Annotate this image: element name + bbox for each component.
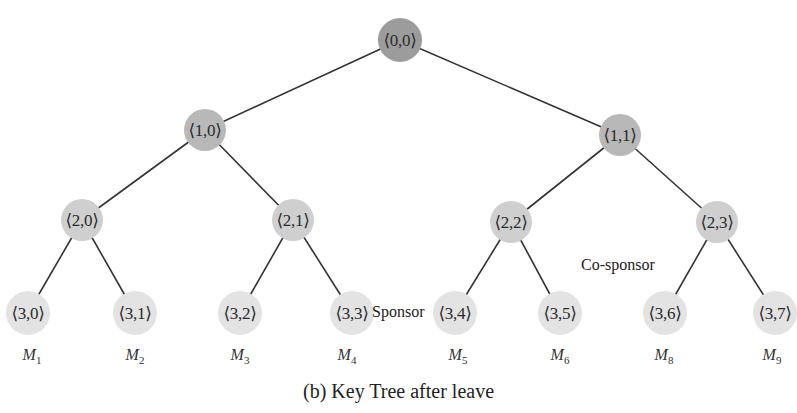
member-label-m9: M9 <box>763 346 782 366</box>
sponsor-label: Sponsor <box>372 303 424 321</box>
tree-node-2-2: ⟨2,2⟩ <box>490 201 532 243</box>
member-label-m4: M4 <box>338 346 357 366</box>
tree-node-3-0: ⟨3,0⟩ <box>6 291 50 335</box>
tree-node-3-2: ⟨3,2⟩ <box>218 291 262 335</box>
tree-node-3-4: ⟨3,4⟩ <box>433 291 477 335</box>
tree-node-3-1: ⟨3,1⟩ <box>113 291 157 335</box>
tree-edge <box>82 130 205 220</box>
tree-node-3-6: ⟨3,6⟩ <box>643 291 687 335</box>
tree-node-3-3: ⟨3,3⟩ <box>330 291 374 335</box>
tree-node-3-7: ⟨3,7⟩ <box>753 291 797 335</box>
tree-edge <box>400 40 620 135</box>
tree-node-3-5: ⟨3,5⟩ <box>538 291 582 335</box>
tree-node-2-1: ⟨2,1⟩ <box>272 199 314 241</box>
tree-edge <box>205 40 400 130</box>
member-label-m5: M5 <box>449 346 468 366</box>
tree-node-1-0: ⟨1,0⟩ <box>184 109 226 151</box>
member-label-m6: M6 <box>551 346 570 366</box>
tree-node-2-3: ⟨2,3⟩ <box>696 201 738 243</box>
member-label-m8: M8 <box>655 346 674 366</box>
key-tree-diagram: ⟨0,0⟩ ⟨1,0⟩ ⟨1,1⟩ ⟨2,0⟩ ⟨2,1⟩ ⟨2,2⟩ ⟨2,3… <box>0 0 797 413</box>
member-label-m3: M3 <box>231 346 250 366</box>
tree-node-1-1: ⟨1,1⟩ <box>599 114 641 156</box>
member-label-m1: M1 <box>23 346 42 366</box>
co-sponsor-label: Co-sponsor <box>581 256 655 274</box>
member-label-m2: M2 <box>126 346 145 366</box>
tree-node-2-0: ⟨2,0⟩ <box>61 199 103 241</box>
figure-caption: (b) Key Tree after leave <box>0 380 797 403</box>
tree-node-0-0: ⟨0,0⟩ <box>378 18 422 62</box>
